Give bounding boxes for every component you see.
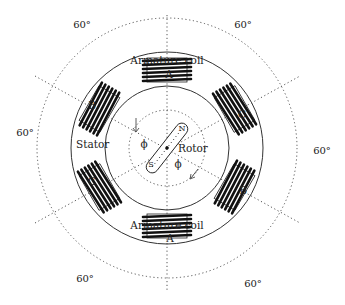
phase-label-a-bottom: A (165, 232, 174, 244)
rotor-pole-s: S (148, 160, 153, 169)
stator-label: Stator (76, 138, 110, 150)
generator-diagram: Armature coil A C B Armature coil A C B … (0, 0, 345, 305)
angle-label-top-left: 60° (73, 19, 91, 30)
angle-label-top-right: 60° (234, 19, 252, 30)
phase-label-a-top: A (164, 68, 173, 80)
angle-label-left: 60° (16, 127, 34, 138)
angle-label-right: 60° (313, 145, 331, 156)
phase-label-b-right: B (239, 184, 247, 196)
flux-arrow-left (133, 118, 139, 132)
armature-coil-label-bottom: Armature coil (129, 219, 204, 231)
flux-arrow-right (190, 169, 198, 179)
flux-label-left: ϕ (140, 138, 147, 150)
armature-coil-lower-right (212, 160, 257, 214)
armature-coil-upper-right (212, 82, 257, 136)
angle-label-bottom-right: 60° (244, 278, 262, 289)
flux-label-right: ϕ (174, 158, 181, 170)
angle-label-bottom-left: 60° (76, 273, 94, 284)
armature-coil-lower-left (77, 160, 122, 214)
phase-label-c-left: C (88, 175, 96, 187)
armature-coil-label-top: Armature coil (129, 54, 204, 66)
rotor-pole-n: N (179, 124, 186, 133)
rotor-label: Rotor (178, 142, 209, 154)
armature-coil-upper-left (77, 82, 122, 136)
phase-label-c-right: C (238, 108, 246, 120)
phase-label-b-left: B (88, 99, 96, 111)
